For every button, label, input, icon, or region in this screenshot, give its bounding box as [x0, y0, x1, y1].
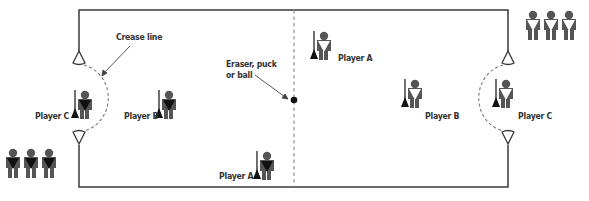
player-c-right — [492, 79, 513, 108]
crease-line-label: Crease line — [116, 31, 162, 42]
ball-label-line1: Eraser, puck — [226, 58, 277, 69]
right-player-a-label: Player A — [338, 52, 372, 63]
left-player-b-label: Player B — [124, 110, 158, 121]
game-diagram: Crease line Eraser, puck or ball Player … — [0, 0, 589, 201]
player-b-right — [401, 79, 422, 108]
player-a-left — [253, 151, 274, 180]
player-c-left — [71, 90, 92, 119]
right-bench — [526, 11, 576, 40]
left-player-a-label: Player A — [219, 170, 253, 181]
player-a-right — [310, 31, 331, 60]
right-player-b-label: Player B — [425, 110, 459, 121]
ball — [291, 97, 298, 104]
ball-label-line2: or ball — [226, 69, 252, 80]
right-player-c-label: Player C — [518, 110, 552, 121]
field-drawing — [0, 0, 589, 201]
annotation-arrows — [102, 46, 288, 99]
left-player-c-label: Player C — [35, 110, 69, 121]
left-bench — [6, 149, 56, 178]
